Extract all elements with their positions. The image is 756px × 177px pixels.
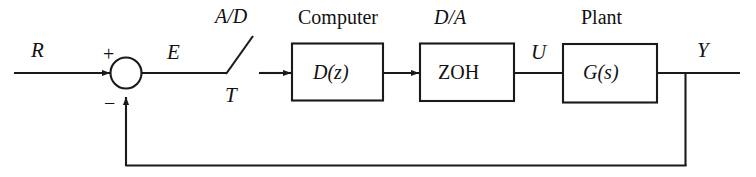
control-signal-label: U (531, 42, 546, 63)
summing-minus-sign: − (104, 93, 115, 113)
da-converter-label: D/A (434, 7, 466, 27)
sample-period-label: T (225, 85, 237, 106)
zoh-block-label: ZOH (438, 62, 479, 82)
computer-header-label: Computer (298, 7, 378, 27)
block-diagram: R + − E A/D T Computer D(z) D/A ZOH U Pl… (0, 0, 756, 177)
error-signal-label: E (167, 42, 180, 63)
ad-converter-label: A/D (215, 6, 247, 26)
summing-plus-sign: + (103, 44, 114, 64)
computer-block-label: D(z) (313, 62, 349, 82)
diagram-canvas (0, 0, 756, 177)
output-signal-label: Y (697, 40, 709, 61)
summing-junction (111, 58, 142, 89)
ad-switch-arm (226, 36, 253, 74)
plant-block-label: G(s) (583, 62, 619, 82)
plant-header-label: Plant (581, 7, 622, 27)
reference-signal-label: R (31, 40, 44, 61)
